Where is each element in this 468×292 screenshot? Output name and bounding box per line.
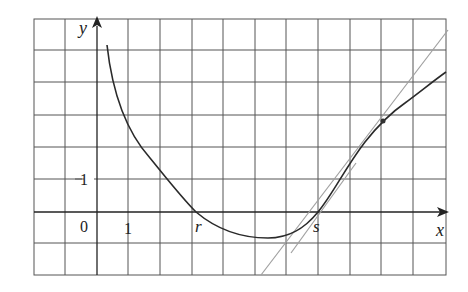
root-r-label: r: [195, 217, 202, 236]
point-marker: [381, 119, 386, 124]
function-curve: [107, 45, 446, 238]
x-axis-label: x: [435, 220, 444, 240]
x-tick-label-1: 1: [124, 220, 132, 237]
y-axis-label: y: [77, 18, 87, 38]
tangent-lines: [261, 30, 448, 275]
tangent-line: [261, 30, 448, 275]
graph-canvas: 1 0 1 r s x y: [0, 0, 468, 292]
grid: [34, 19, 446, 275]
axes: [34, 26, 440, 275]
secant-line: [291, 163, 356, 253]
root-s-label: s: [313, 217, 320, 236]
origin-label: 0: [80, 218, 88, 235]
